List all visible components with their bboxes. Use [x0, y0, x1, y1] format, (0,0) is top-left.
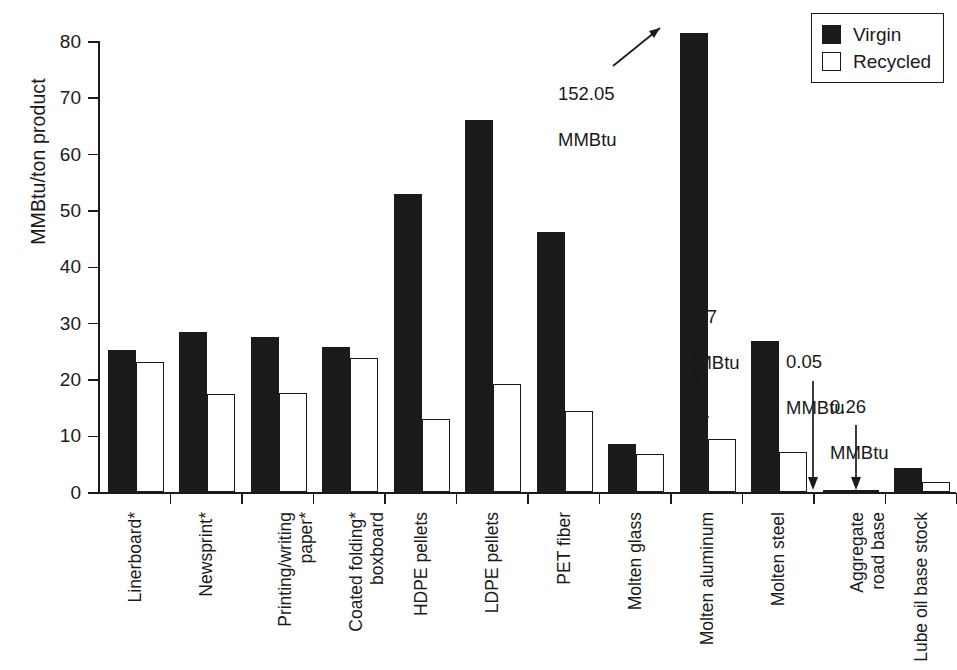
annotation-arrow-aggregate-recycled-icon — [0, 0, 957, 670]
energy-consumption-bar-chart: MMBtu/ton product 01020304050607080 Line… — [0, 0, 957, 670]
